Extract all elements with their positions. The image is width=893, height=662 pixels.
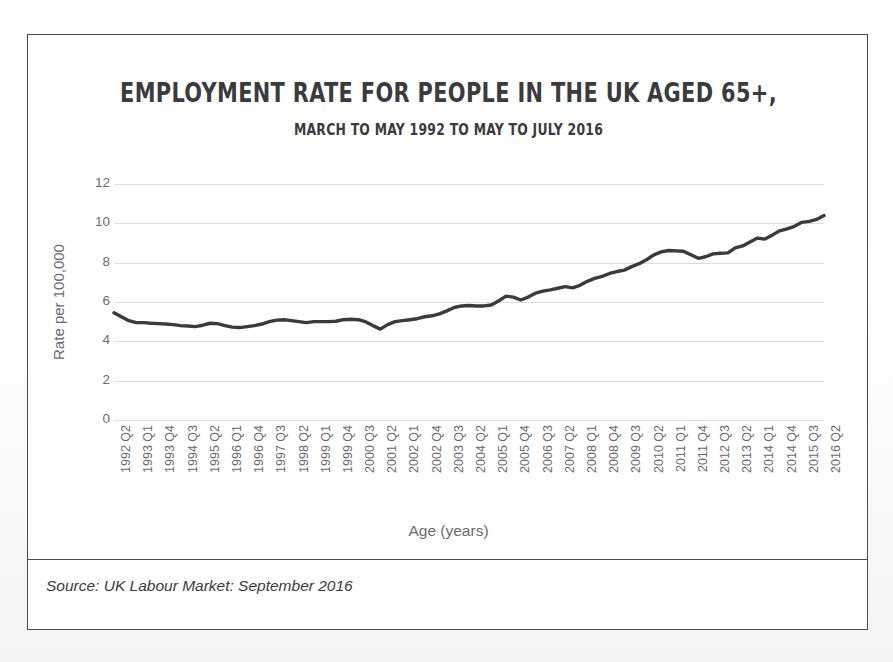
x-axis-tick-label: 1996 Q1 [230,425,244,473]
x-axis-tick-label: 1996 Q4 [252,425,266,473]
x-axis-tick-label: 2013 Q2 [740,425,754,473]
chart-subtitle: MARCH TO MAY 1992 TO MAY TO JULY 2016 [87,120,810,139]
y-axis-tick-label: 2 [50,372,110,387]
data-line-series [114,184,824,420]
y-axis-tick-label: 6 [50,293,110,308]
x-axis-tick-label: 1997 Q3 [274,425,288,473]
x-axis-tick-label: 2003 Q3 [452,425,466,473]
x-axis-tick-label: 1999 Q1 [319,425,333,473]
x-axis-tick-label: 2006 Q3 [541,425,555,473]
x-axis-tick-label: 2015 Q3 [807,425,821,473]
x-axis-label: Age (years) [28,522,869,540]
x-axis-tick-label: 2007 Q2 [563,425,577,473]
x-axis-tick-label: 2000 Q3 [363,425,377,473]
x-axis-tick-label: 2014 Q4 [785,425,799,473]
x-axis-tick-label: 1995 Q2 [208,425,222,473]
x-axis-tick-label: 2011 Q4 [696,425,710,472]
source-divider [28,559,867,560]
x-axis-tick-label: 2012 Q3 [718,425,732,473]
y-axis-tick-label: 10 [50,214,110,229]
x-axis-tick-label: 2009 Q3 [629,425,643,473]
x-axis-tick-label: 2002 Q1 [407,425,421,473]
x-axis-tick-label: 2002 Q4 [430,425,444,473]
gridline [114,420,824,421]
x-axis-tick-label: 2001 Q2 [385,425,399,473]
y-axis-tick-label: 12 [50,175,110,190]
page-background: EMPLOYMENT RATE FOR PEOPLE IN THE UK AGE… [0,0,893,662]
y-axis-tick-label: 8 [50,254,110,269]
x-axis-tick-label: 2010 Q2 [652,425,666,473]
x-axis-tick-label: 1993 Q4 [163,425,177,473]
x-axis-tick-label: 2005 Q1 [496,425,510,473]
chart-title: EMPLOYMENT RATE FOR PEOPLE IN THE UK AGE… [87,77,810,108]
y-axis-tick-label: 0 [50,411,110,426]
x-axis-tick-label: 2008 Q4 [607,425,621,473]
y-axis-tick-label: 4 [50,332,110,347]
x-axis-ticks: 1992 Q21993 Q11993 Q41994 Q31995 Q21996 … [114,425,824,515]
x-axis-tick-label: 2016 Q2 [829,425,843,473]
x-axis-tick-label: 1999 Q4 [341,425,355,473]
x-axis-tick-label: 1998 Q2 [297,425,311,473]
chart-frame: EMPLOYMENT RATE FOR PEOPLE IN THE UK AGE… [27,34,868,630]
x-axis-tick-label: 2011 Q1 [674,425,688,472]
x-axis-tick-label: 2014 Q1 [762,425,776,473]
x-axis-tick-label: 2008 Q1 [585,425,599,473]
source-note: Source: UK Labour Market: September 2016 [46,577,353,595]
x-axis-tick-label: 1994 Q3 [186,425,200,473]
x-axis-tick-label: 2005 Q4 [518,425,532,473]
x-axis-tick-label: 1992 Q2 [119,425,133,473]
x-axis-tick-label: 1993 Q1 [141,425,155,473]
plot-area: Rate per 100,000 024681012 [114,184,824,420]
x-axis-tick-label: 2004 Q2 [474,425,488,473]
